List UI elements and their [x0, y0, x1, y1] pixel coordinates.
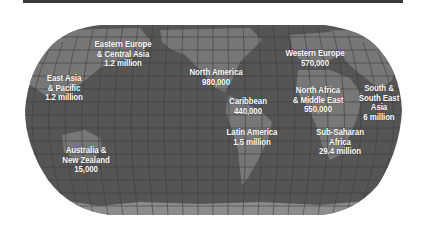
label-value: 1.2 million	[94, 59, 151, 69]
label-value: 550,000	[293, 105, 344, 115]
label-value: 440,000	[229, 107, 267, 117]
region-label-south-southeast-asia: South & South East Asia 6 million	[359, 84, 399, 122]
region-label-north-africa-middle-east: North Africa & Middle East 550,000	[293, 86, 344, 115]
label-value: 29.4 million	[316, 147, 364, 157]
region-label-north-america: North America 980,000	[189, 68, 242, 87]
region-label-western-europe: Western Europe 570,000	[285, 49, 344, 68]
label-value: 570,000	[285, 59, 344, 69]
antarctica-landmass	[20, 200, 410, 231]
region-label-australia-new-zealand: Australia & New Zealand 15,000	[62, 146, 109, 175]
label-value: 1.2 million	[45, 93, 83, 103]
region-label-sub-saharan-africa: Sub-Saharan Africa 29.4 million	[316, 128, 364, 157]
region-label-caribbean: Caribbean 440,000	[229, 97, 267, 116]
label-value: 15,000	[62, 165, 109, 175]
region-label-east-asia-pacific: East Asia & Pacific 1.2 million	[45, 74, 83, 103]
label-value: 980,000	[189, 78, 242, 88]
label-value: 1.5 million	[227, 138, 278, 148]
label-value: 6 million	[359, 113, 399, 123]
region-label-latin-america: Latin America 1.5 million	[227, 128, 278, 147]
region-label-eastern-europe-central-asia: Eastern Europe & Central Asia 1.2 millio…	[94, 40, 151, 69]
